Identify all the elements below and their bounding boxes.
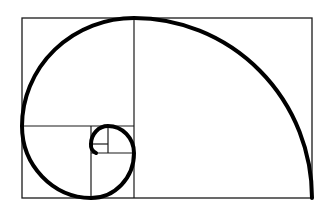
golden-spiral-curve (22, 18, 312, 198)
outer-rectangle (22, 18, 312, 198)
golden-spiral-diagram (0, 0, 328, 220)
